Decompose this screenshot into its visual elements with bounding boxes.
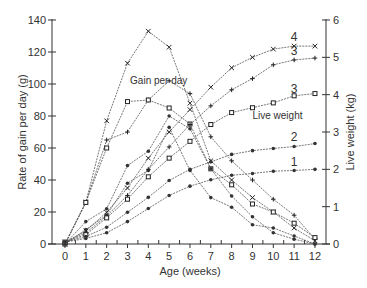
square-marker-icon [125, 100, 129, 104]
series-line [65, 81, 315, 244]
square-marker-icon [146, 175, 150, 179]
right-axis-tick-label: 5 [333, 51, 339, 63]
right-axis-tick-label: 3 [333, 126, 339, 138]
plus-marker-icon [250, 76, 255, 81]
left-axis-tick-label: 120 [28, 46, 46, 58]
x-axis-tick-label: 2 [104, 250, 110, 262]
x-axis-label: Age (weeks) [159, 265, 220, 277]
x-marker-icon [250, 55, 255, 60]
x-marker-icon [188, 101, 193, 106]
dot-marker-icon [292, 145, 296, 149]
dot-marker-icon [251, 149, 255, 153]
series-line [65, 116, 315, 244]
square-marker-icon [105, 216, 109, 220]
chart-svg: 0204060801001201400123456012345678910111… [0, 0, 367, 288]
square-marker-icon [313, 236, 317, 240]
dot-marker-icon [209, 167, 213, 171]
dot-marker-icon [313, 168, 317, 172]
x-marker-icon [146, 29, 151, 34]
annotation-label: Gain per day [130, 75, 187, 86]
square-marker-icon [271, 101, 275, 105]
dot-marker-icon [209, 178, 213, 182]
left-axis-tick-label: 40 [34, 174, 46, 186]
dot-marker-icon [272, 226, 276, 230]
y2-axis-label: Live weight (kg) [344, 93, 356, 170]
plus-marker-icon [188, 91, 193, 96]
x-axis-tick-label: 3 [124, 250, 130, 262]
dot-marker-icon [313, 142, 317, 146]
square-marker-icon [105, 146, 109, 150]
square-marker-icon [125, 197, 129, 201]
left-axis-tick-label: 60 [34, 142, 46, 154]
dot-marker-icon [209, 160, 213, 164]
dot-marker-icon [272, 147, 276, 151]
series-number-label: 1 [291, 155, 298, 169]
square-marker-icon [230, 183, 234, 187]
dot-marker-icon [292, 234, 296, 238]
x-marker-icon [271, 47, 276, 52]
dot-marker-icon [126, 164, 130, 168]
dot-marker-icon [147, 196, 151, 200]
x-axis-tick-label: 0 [62, 250, 68, 262]
dot-marker-icon [63, 240, 67, 244]
square-marker-icon [250, 202, 254, 206]
series-number-label: 2 [291, 130, 298, 144]
square-marker-icon [188, 139, 192, 143]
x-marker-icon [229, 178, 234, 183]
dot-marker-icon [188, 184, 192, 188]
dot-marker-icon [292, 169, 296, 173]
x-axis-tick-label: 7 [208, 250, 214, 262]
plus-marker-icon [125, 130, 130, 135]
dot-marker-icon [167, 125, 171, 129]
dot-marker-icon [147, 207, 151, 211]
square-marker-icon [230, 111, 234, 115]
series-line [65, 58, 315, 242]
dot-marker-icon [167, 194, 171, 198]
series-number-label: 4 [291, 30, 298, 44]
square-marker-icon [84, 200, 88, 204]
square-marker-icon [292, 221, 296, 225]
dot-marker-icon [188, 168, 192, 172]
dot-marker-icon [105, 207, 109, 211]
dot-marker-icon [230, 174, 234, 178]
x-marker-icon [125, 186, 130, 191]
left-axis-tick-label: 140 [28, 14, 46, 26]
x-axis-tick-label: 6 [187, 250, 193, 262]
left-axis-tick-label: 80 [34, 110, 46, 122]
plus-marker-icon [313, 56, 318, 61]
plus-marker-icon [209, 135, 214, 140]
dot-marker-icon [105, 225, 109, 229]
dot-marker-icon [272, 231, 276, 235]
left-axis-tick-label: 20 [34, 206, 46, 218]
series-line [65, 169, 315, 242]
square-marker-icon [146, 98, 150, 102]
series-number-label: 3 [291, 44, 298, 58]
series-live-weight-1 [63, 168, 317, 244]
dot-marker-icon [251, 215, 255, 219]
dot-marker-icon [126, 220, 130, 224]
square-marker-icon [167, 106, 171, 110]
x-marker-icon [146, 156, 151, 161]
dot-marker-icon [126, 210, 130, 214]
plus-marker-icon [104, 138, 109, 143]
dot-marker-icon [272, 169, 276, 173]
x-marker-icon [313, 44, 318, 49]
dot-marker-icon [230, 194, 234, 198]
series-line [65, 31, 315, 244]
x-marker-icon [209, 85, 214, 90]
right-axis-tick-label: 1 [333, 201, 339, 213]
right-axis-tick-label: 6 [333, 14, 339, 26]
gain-and-weight-chart: 0204060801001201400123456012345678910111… [0, 0, 367, 288]
x-marker-icon [125, 61, 130, 66]
series-gain-per-day-2 [63, 114, 317, 246]
dot-marker-icon [230, 205, 234, 209]
square-marker-icon [271, 210, 275, 214]
series-number-label: 3 [291, 82, 298, 96]
right-axis-tick-label: 0 [333, 238, 339, 250]
dot-marker-icon [188, 127, 192, 131]
annotation-label: Live weight [252, 110, 302, 121]
dot-marker-icon [84, 237, 88, 241]
y-axis-label: Rate of gain per day (g) [16, 74, 28, 190]
square-marker-icon [313, 92, 317, 96]
plus-marker-icon [271, 63, 276, 68]
